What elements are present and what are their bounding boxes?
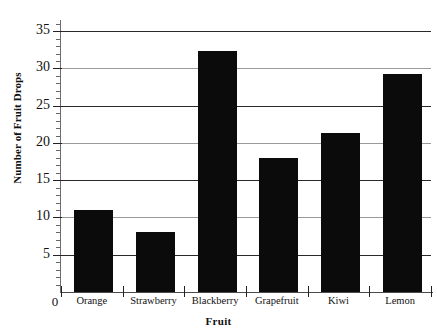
y-axis-tick — [53, 68, 62, 69]
x-axis-category-label: Blackberry — [184, 295, 246, 307]
x-axis-line — [61, 292, 433, 293]
y-axis-tick-label: 30 — [4, 60, 50, 74]
y-axis-tick — [53, 31, 62, 32]
y-axis-tick — [53, 255, 62, 256]
y-axis-minor-tick — [56, 195, 61, 196]
y-axis-tick — [53, 143, 62, 144]
y-axis-minor-tick — [56, 247, 61, 248]
y-axis-minor-tick — [56, 158, 61, 159]
y-axis-minor-tick — [56, 121, 61, 122]
x-axis-category-label: Grapefruit — [246, 295, 308, 307]
y-axis-tick — [53, 180, 62, 181]
origin-label: 0 — [48, 295, 62, 308]
y-axis-tick-labels: 5101520253035 — [0, 0, 50, 333]
gridline — [61, 255, 431, 256]
y-axis-minor-tick — [56, 240, 61, 241]
y-axis-minor-tick — [56, 91, 61, 92]
x-axis-tick — [431, 286, 432, 297]
y-axis-minor-tick — [56, 225, 61, 226]
y-axis-minor-tick — [56, 113, 61, 114]
y-axis-minor-tick — [56, 128, 61, 129]
y-axis-minor-tick — [56, 203, 61, 204]
bar — [259, 158, 298, 292]
x-axis-title: Fruit — [0, 315, 437, 327]
y-axis-minor-tick — [56, 136, 61, 137]
x-axis-category-label: Strawberry — [123, 295, 185, 307]
y-axis-minor-tick — [56, 232, 61, 233]
y-axis-minor-tick — [56, 165, 61, 166]
bar — [198, 51, 237, 292]
bar — [74, 210, 113, 292]
y-axis-minor-tick — [56, 277, 61, 278]
gridline — [61, 180, 431, 181]
y-axis-tick — [53, 106, 62, 107]
y-axis-tick-label: 5 — [4, 247, 50, 261]
y-axis-minor-tick — [56, 150, 61, 151]
y-axis-minor-tick — [56, 24, 61, 25]
bar — [383, 74, 422, 292]
y-axis-minor-tick — [56, 262, 61, 263]
y-axis-minor-tick — [56, 83, 61, 84]
y-axis-minor-tick — [56, 39, 61, 40]
y-axis-tick-label: 25 — [4, 98, 50, 112]
y-axis-minor-tick — [56, 210, 61, 211]
gridline — [61, 31, 431, 32]
y-axis-minor-tick — [56, 270, 61, 271]
bar-chart: Number of Fruit Drops 5101520253035 0 Fr… — [0, 0, 437, 333]
y-axis-minor-tick — [56, 98, 61, 99]
plot-area — [61, 20, 431, 292]
y-axis-minor-tick — [56, 76, 61, 77]
x-axis-category-label: Kiwi — [308, 295, 370, 307]
bar — [321, 133, 360, 292]
y-axis-minor-tick — [56, 188, 61, 189]
y-axis-tick-label: 10 — [4, 209, 50, 223]
gridline — [61, 106, 431, 107]
y-axis-tick-label: 15 — [4, 172, 50, 186]
bar — [136, 232, 175, 292]
gridline — [61, 217, 431, 218]
y-axis-tick — [53, 217, 62, 218]
y-axis-tick-label: 20 — [4, 135, 50, 149]
y-axis-minor-tick — [56, 46, 61, 47]
x-axis-category-label: Lemon — [369, 295, 431, 307]
gridline — [61, 68, 431, 69]
y-axis-minor-tick — [56, 54, 61, 55]
y-axis-tick-label: 35 — [4, 23, 50, 37]
y-axis-minor-tick — [56, 61, 61, 62]
x-axis-category-label: Orange — [61, 295, 123, 307]
gridline — [61, 143, 431, 144]
y-axis-minor-tick — [56, 173, 61, 174]
